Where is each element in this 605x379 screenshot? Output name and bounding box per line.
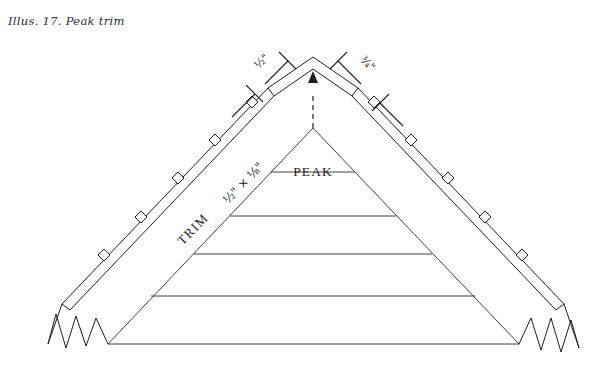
trim-board-left bbox=[62, 88, 274, 310]
trim-board-right bbox=[352, 88, 564, 310]
trim-tab-r4 bbox=[479, 211, 491, 223]
trim-right-outer-edge bbox=[358, 88, 564, 304]
trim-left-end-cap bbox=[62, 304, 70, 310]
trim-tab-r2 bbox=[405, 134, 417, 146]
peak-callout-group: PEAK bbox=[293, 164, 333, 179]
trim-tab-l4 bbox=[135, 211, 147, 223]
roof-field bbox=[108, 128, 519, 344]
inner-rafter-right bbox=[313, 128, 519, 344]
trim-left-inner-edge bbox=[70, 96, 274, 310]
trim-label: TRIM bbox=[174, 210, 211, 248]
trim-tab-r3 bbox=[442, 172, 454, 184]
dimension-right-text: ¾" bbox=[357, 53, 377, 73]
trim-right-inner-edge bbox=[352, 96, 556, 310]
illustration-canvas: Illus. 17. Peak trim bbox=[0, 0, 605, 379]
trim-tab-l5 bbox=[98, 249, 110, 261]
trim-tab-r5 bbox=[516, 249, 528, 261]
inner-rafter-left bbox=[108, 128, 313, 344]
apex-leader bbox=[308, 71, 318, 128]
apex-leader-arrowhead bbox=[308, 71, 318, 83]
dimension-right-group: ¾" bbox=[330, 52, 403, 126]
peak-label: PEAK bbox=[293, 164, 333, 179]
break-symbol-right bbox=[519, 304, 579, 352]
trim-right-end-cap bbox=[556, 304, 564, 310]
trim-tab-l1 bbox=[246, 96, 258, 108]
trim-tab-l3 bbox=[172, 172, 184, 184]
dimension-left-text: ½" bbox=[251, 51, 271, 71]
trim-tab-r1 bbox=[368, 96, 380, 108]
break-zigzag-right bbox=[519, 304, 579, 352]
trim-callout-group: TRIM ½" × ⅛" bbox=[174, 160, 266, 248]
dim-right-tick-upper bbox=[330, 52, 347, 69]
peak-trim-drawing: ½" ¾" PEAK TRIM ½" × ⅛" bbox=[0, 0, 605, 379]
trim-size-label: ½" × ⅛" bbox=[220, 160, 266, 207]
shingle-course-lines bbox=[108, 172, 519, 344]
trim-tab-l2 bbox=[209, 134, 221, 146]
break-symbol-left bbox=[48, 304, 108, 348]
dim-left-tick-upper bbox=[279, 52, 296, 69]
trim-right-tabs bbox=[368, 96, 528, 261]
break-zigzag-left bbox=[48, 304, 108, 348]
